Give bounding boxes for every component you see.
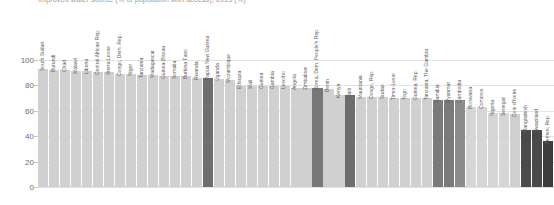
bar[interactable] [192,78,202,187]
bar-category-label: Senegal [501,97,506,116]
bar[interactable] [115,74,125,187]
y-axis-tick-label: 80 [4,81,34,90]
bar-category-label: Angola [292,74,297,90]
bar-category-label: Comoros [479,89,484,110]
bar-category-label: Gambia [270,71,275,89]
bar-category-label: Burkina Faso [182,49,187,79]
bar[interactable] [532,130,542,187]
bar-category-label: Tanzania, The Gambia [424,49,429,100]
bar-category-label: Papua New Guinea [204,36,209,80]
bar[interactable] [104,72,114,187]
bar[interactable] [323,89,333,187]
bar-category-label: Botswana [468,87,473,109]
bar-category-label: Niger [128,64,133,76]
bar[interactable] [291,88,301,187]
bar[interactable] [499,113,509,187]
bar-category-label: Uganda [215,64,220,82]
bar[interactable] [466,107,476,187]
bar[interactable] [444,100,454,187]
bar[interactable] [258,86,268,187]
bar[interactable] [137,75,147,187]
bar-category-label: Benin [325,79,330,92]
bar-category-label: Malawi [73,58,78,74]
bar-category-label: Haiti [347,88,352,98]
bar-category-label: Madagascar [150,50,155,78]
gridline [38,187,554,188]
bar-category-label: Sudan [380,84,385,99]
bar[interactable] [510,114,520,187]
bar-category-label: Congo, Rep. [369,71,374,100]
bar[interactable] [126,74,136,187]
bar[interactable] [455,100,465,187]
bar[interactable] [378,97,388,187]
bar-category-label: Mozambique [226,54,231,83]
bar[interactable] [225,80,235,187]
bar-category-label: Togo [402,89,407,100]
bar-category-label: Cote d'Ivoire [512,89,517,117]
bar[interactable] [488,113,498,187]
bar[interactable] [269,86,279,187]
bar-category-label: Bangladesh [523,105,528,132]
bar-category-label: Guinea-Bissau [161,45,166,78]
bar[interactable] [148,75,158,187]
bar[interactable] [301,88,311,187]
bar-category-label: Guinea [259,73,264,89]
bar-category-label: Congo, Dem. Rep. [117,34,122,76]
bar-category-label: Namibia [435,84,440,103]
chart-container: Improved water source (% of population w… [0,0,554,205]
bar[interactable] [312,88,322,187]
bar-category-label: Lesotho [281,71,286,89]
bar-category-label: Myanmar [446,82,451,103]
bar[interactable] [389,98,399,187]
bar-category-label: Yemen, Rep. [545,115,550,144]
bar-category-label: Swaziland [534,109,539,132]
bar[interactable] [49,70,59,187]
bar[interactable] [543,141,553,187]
bar[interactable] [60,70,70,187]
bar[interactable] [367,97,377,187]
bar-category-label: Kenya [336,84,341,98]
bar-category-label: Guinea, Rep. [413,70,418,100]
bar[interactable] [334,95,344,187]
bar[interactable] [159,76,169,187]
bar[interactable] [214,79,224,187]
bar[interactable] [521,130,531,187]
y-axis-tick-label: 100 [4,55,34,64]
bar[interactable] [203,78,213,187]
bar-category-label: Sierra Leone [106,46,111,75]
bar[interactable] [422,98,432,187]
bar-category-label: Cambodia [457,80,462,103]
bar[interactable] [82,71,92,187]
bar-category-label: Chad [62,60,67,72]
bar-category-label: Somalia [171,60,176,78]
bar[interactable] [400,98,410,187]
y-axis-tick-label: 0 [4,183,34,192]
bar-category-label: Ethiopia [237,71,242,89]
bar[interactable] [236,86,246,187]
bar[interactable] [411,98,421,187]
bar-category-label: Liberia [84,58,89,73]
bar-category-label: Zimbabwe [303,67,308,91]
bar[interactable] [247,86,257,187]
bar-category-label: Central African Rep. [95,29,100,75]
bar-category-label: Nigeria [490,100,495,116]
bar[interactable] [280,86,290,187]
bar[interactable] [433,100,443,187]
bar[interactable] [93,72,103,187]
plot-area: South SudanBurundiChadMalawiLiberiaCentr… [38,47,554,187]
y-axis-tick-label: 40 [4,132,34,141]
y-axis-tick-label: 20 [4,157,34,166]
bar[interactable] [477,107,487,187]
bar-category-label: Mauritania [358,75,363,99]
chart-title: Improved water source (% of population w… [38,0,246,4]
bar-category-label: Korea, Dem. People's Rep. [314,29,319,91]
bar-category-label: South Sudan [40,42,45,71]
bar[interactable] [71,71,81,187]
bar[interactable] [170,76,180,187]
bar[interactable] [345,95,355,187]
bar[interactable] [356,97,366,187]
bar[interactable] [181,76,191,187]
bar[interactable] [38,69,48,187]
bar-category-label: Tanzania [139,57,144,77]
bar-category-label: Burundi [51,55,56,73]
